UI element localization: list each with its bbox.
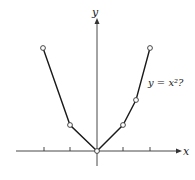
data-point: [68, 123, 73, 128]
data-point: [148, 46, 153, 51]
chart: y x y = x²?: [0, 0, 195, 180]
curve-annotation: y = x²?: [147, 77, 184, 88]
y-axis-label: y: [91, 6, 99, 19]
data-point: [41, 46, 46, 51]
x-axis-arrow-icon: [176, 149, 182, 154]
data-point: [121, 123, 126, 128]
data-point: [134, 98, 139, 103]
x-axis-label: x: [183, 145, 190, 158]
data-point: [95, 149, 100, 154]
